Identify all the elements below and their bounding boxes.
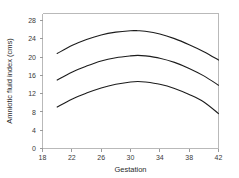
x-tick-label: 38	[185, 154, 193, 161]
y-tick-label: 20	[28, 54, 36, 61]
y-tick-label: 24	[28, 35, 36, 42]
x-tick-label: 42	[215, 154, 223, 161]
x-tick-label: 30	[127, 154, 135, 161]
amniotic-fluid-index-line-chart: 0 4 8 12 16 20 24 28 18 22 26 30 34 38 4…	[0, 0, 239, 178]
x-tick-label: 22	[68, 154, 76, 161]
chart-figure: 0 4 8 12 16 20 24 28 18 22 26 30 34 38 4…	[0, 0, 239, 178]
x-axis-title: Gestation	[114, 165, 146, 174]
y-tick-label: 4	[32, 127, 36, 134]
y-tick-label: 28	[28, 17, 36, 24]
y-tick-label: 16	[28, 72, 36, 79]
y-tick-label: 8	[32, 109, 36, 116]
x-tick-label: 26	[97, 154, 105, 161]
y-tick-label: 0	[32, 145, 36, 152]
x-tick-label: 34	[156, 154, 164, 161]
y-axis-title: Amniotic fluid index (cms)	[5, 38, 14, 124]
x-tick-label: 18	[39, 154, 47, 161]
y-tick-label: 12	[28, 90, 36, 97]
